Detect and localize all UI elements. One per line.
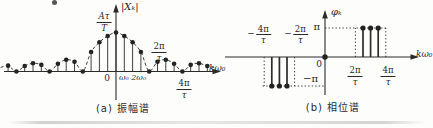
- phase-negative-pi-tick-label: −π: [300, 74, 318, 84]
- minus-sign: −: [284, 29, 292, 38]
- scan-artifact-line: [8, 121, 425, 124]
- phase-origin-dot: [322, 54, 327, 59]
- 2pi-fraction: 2π τ: [348, 66, 363, 86]
- peak-fraction-denominator: T: [101, 23, 107, 33]
- amplitude-ylabel: |Xₖ|: [121, 2, 139, 12]
- second-zero-fraction: 4π τ: [177, 79, 192, 99]
- 4pi-denominator: τ: [386, 77, 391, 87]
- amplitude-origin-label: 0: [96, 74, 110, 83]
- peak-fraction: Aτ T: [97, 12, 112, 32]
- phase-sample-dot: [277, 83, 282, 88]
- amplitude-harmonics-label: ω₀ 2ω₀: [119, 74, 146, 82]
- scan-speck: [52, 0, 57, 5]
- first-zero-fraction: 2π τ: [152, 42, 167, 62]
- neg-2pi-denominator: τ: [298, 35, 303, 45]
- neg-2pi-fraction: 2π τ: [293, 25, 308, 45]
- first-zero-denominator: τ: [157, 53, 162, 63]
- 2pi-denominator: τ: [353, 77, 358, 87]
- amplitude-sample-dot: [122, 34, 127, 39]
- second-zero-numerator: 4π: [177, 79, 192, 90]
- phase-sample-dot: [269, 83, 274, 88]
- phase-pi-tick-label: π: [306, 22, 320, 32]
- spectrum-figure: |Xₖ| Aτ T 2π τ 0 ω₀ 2ω₀ 4π τ kω₀ (a) 振幅谱…: [0, 0, 433, 128]
- phase-caption: (b) 相位谱: [306, 103, 360, 113]
- phase-origin-label: 0: [308, 60, 322, 69]
- phase-sample-dot: [360, 25, 365, 30]
- neg-4pi-denominator: τ: [261, 35, 266, 45]
- phase-y-axis-arrow: [322, 10, 328, 19]
- phase-neg-2pi-label: − 2π τ: [284, 24, 308, 45]
- first-zero-numerator: 2π: [152, 42, 167, 53]
- amplitude-sample-dot: [139, 50, 144, 55]
- peak-fraction-numerator: Aτ: [97, 12, 112, 23]
- amplitude-first-zero-label: 2π τ: [159, 36, 174, 62]
- phase-sample-dot: [376, 25, 381, 30]
- amplitude-caption: (a) 振幅谱: [96, 104, 150, 114]
- second-zero-denominator: τ: [182, 90, 187, 100]
- amplitude-second-zero-label: 4π τ: [184, 73, 199, 99]
- neg-4pi-numerator: 4π: [256, 25, 271, 36]
- phase-ylabel: φₖ: [331, 7, 342, 17]
- phase-4pi-label: 4π τ: [381, 60, 396, 86]
- phase-2pi-label: 2π τ: [348, 60, 363, 86]
- phase-neg-4pi-label: − 4π τ: [247, 24, 271, 45]
- 4pi-fraction: 4π τ: [381, 66, 396, 86]
- neg-2pi-numerator: 2π: [293, 25, 308, 36]
- phase-sample-dot: [284, 83, 289, 88]
- phase-xaxis-label: kω₀: [416, 50, 432, 59]
- 2pi-numerator: 2π: [348, 66, 363, 77]
- neg-4pi-fraction: 4π τ: [256, 25, 271, 45]
- amplitude-peak-label: Aτ T: [104, 6, 119, 32]
- minus-sign: −: [247, 29, 255, 38]
- amplitude-xaxis-label: kω₀: [209, 64, 225, 73]
- 4pi-numerator: 4π: [381, 66, 396, 77]
- phase-sample-dot: [368, 25, 373, 30]
